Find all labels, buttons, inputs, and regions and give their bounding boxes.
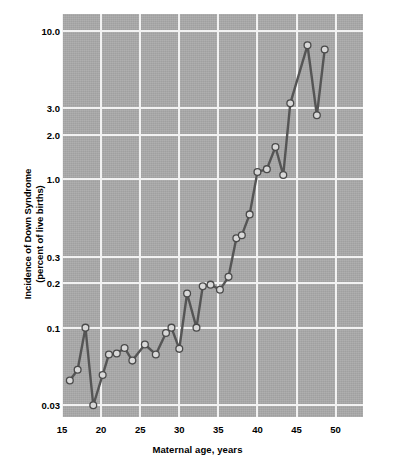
y-axis-tick-label: 0.2	[14, 277, 60, 288]
data-point-marker	[99, 372, 106, 379]
x-axis-tick-label: 50	[330, 424, 341, 435]
data-point-marker	[263, 166, 270, 173]
data-point-marker	[82, 324, 89, 331]
data-point-marker	[163, 330, 170, 337]
data-point-marker	[287, 100, 294, 107]
series-markers	[66, 42, 328, 409]
data-point-marker	[238, 232, 245, 239]
data-point-marker	[113, 350, 120, 357]
data-point-marker	[313, 112, 320, 119]
data-point-marker	[304, 42, 311, 49]
y-axis-ticks: 0.030.10.20.31.02.03.010.0	[8, 0, 60, 468]
data-point-marker	[272, 144, 279, 151]
data-point-marker	[193, 324, 200, 331]
y-axis-tick-label: 0.03	[14, 400, 60, 411]
data-point-marker	[74, 366, 81, 373]
data-point-marker	[207, 281, 214, 288]
data-point-marker	[106, 351, 113, 358]
data-point-marker	[141, 341, 148, 348]
y-axis-tick-label: 2.0	[14, 129, 60, 140]
x-axis-tick-label: 15	[57, 424, 68, 435]
data-point-marker	[129, 357, 136, 364]
x-axis-tick-label: 35	[213, 424, 224, 435]
y-axis-tick-label: 1.0	[14, 174, 60, 185]
y-axis-tick-label: 3.0	[14, 103, 60, 114]
data-point-marker	[66, 377, 73, 384]
x-axis-tick-label: 45	[291, 424, 302, 435]
data-point-marker	[217, 286, 224, 293]
data-point-marker	[168, 324, 175, 331]
data-point-marker	[121, 345, 128, 352]
data-point-marker	[225, 273, 232, 280]
data-point-marker	[246, 211, 253, 218]
x-axis-tick-label: 20	[96, 424, 107, 435]
y-axis-tick-label: 10.0	[14, 25, 60, 36]
x-axis-tick-label: 40	[252, 424, 263, 435]
data-point-marker	[176, 345, 183, 352]
data-point-marker	[280, 172, 287, 179]
data-point-marker	[199, 283, 206, 290]
chart-figure: 0.030.10.20.31.02.03.010.0 1520253035404…	[0, 0, 395, 468]
data-point-marker	[184, 290, 191, 297]
x-axis-label: Maternal age, years	[0, 444, 395, 455]
data-point-marker	[321, 46, 328, 53]
x-axis-ticks: 1520253035404550	[0, 424, 395, 440]
data-series-layer	[62, 14, 363, 417]
data-point-marker	[254, 169, 261, 176]
y-axis-tick-label: 0.1	[14, 322, 60, 333]
x-axis-tick-label: 30	[174, 424, 185, 435]
plot-area	[62, 14, 363, 417]
x-axis-tick-label: 25	[135, 424, 146, 435]
y-axis-tick-label: 0.3	[14, 251, 60, 262]
data-point-marker	[152, 351, 159, 358]
data-point-marker	[90, 402, 97, 409]
